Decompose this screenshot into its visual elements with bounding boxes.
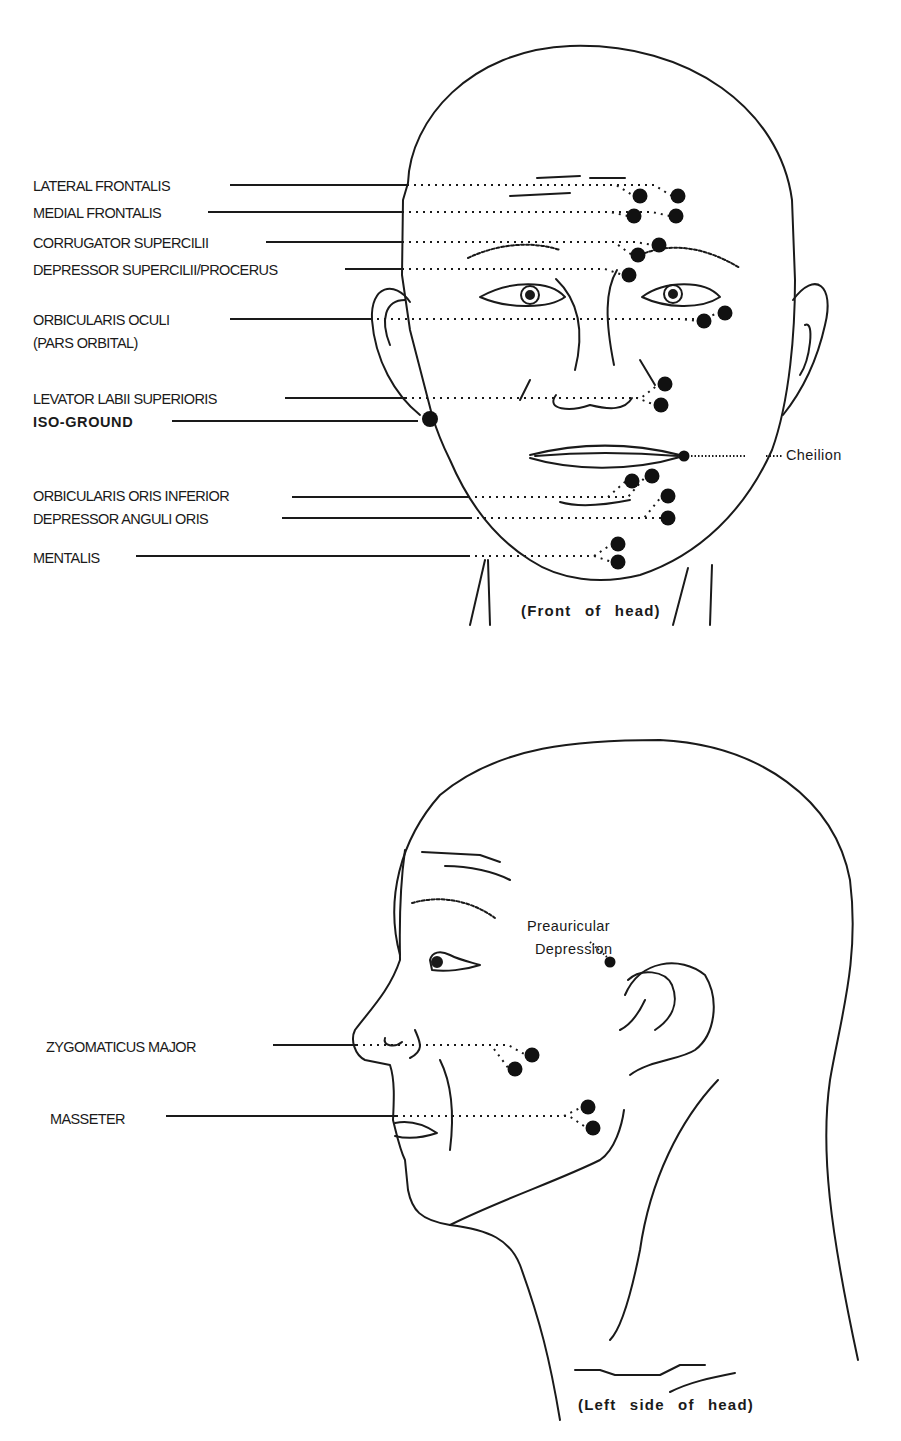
front-neck-right2 bbox=[673, 568, 688, 625]
electrode-zygomaticus-major-1 bbox=[525, 1048, 540, 1063]
front-neck-left2 bbox=[488, 560, 490, 625]
side-mouth bbox=[395, 1122, 437, 1138]
side-ear-inner bbox=[628, 972, 675, 1030]
shoulder-line bbox=[575, 1365, 705, 1375]
label-corrugator-supercilii: CORRUGATOR SUPERCILII bbox=[33, 236, 208, 251]
side-eyebrow bbox=[412, 899, 495, 918]
cheilion-marker bbox=[679, 451, 690, 462]
electrode-depressor-anguli-oris-2 bbox=[661, 511, 676, 526]
label-levator-labii-superioris: LEVATOR LABII SUPERIORIS bbox=[33, 392, 217, 407]
label-depressor-anguli-oris: DEPRESSOR ANGULI ORIS bbox=[33, 512, 208, 527]
eyebrow-left bbox=[468, 245, 560, 258]
front-head-outline bbox=[402, 46, 795, 580]
guide-dotted-orbicularis-oculi bbox=[370, 313, 719, 319]
nasolabial-right bbox=[640, 360, 655, 385]
label-zygomaticus-major: ZYGOMATICUS MAJOR bbox=[46, 1040, 196, 1055]
shoulder-line bbox=[670, 1373, 735, 1392]
nose-base bbox=[553, 395, 632, 409]
electrode-orbicularis-oculi-1 bbox=[697, 314, 712, 329]
side-neck-back bbox=[610, 1080, 718, 1340]
side-pupil bbox=[432, 957, 442, 967]
pupil-left bbox=[526, 291, 534, 299]
front-ear-left-inner bbox=[385, 300, 405, 345]
electrode-depressor-anguli-oris-1 bbox=[661, 489, 676, 504]
side-nasolabial bbox=[410, 1030, 420, 1058]
label-iso-ground: ISO-GROUND bbox=[33, 415, 133, 430]
mouth-middle bbox=[535, 453, 678, 456]
electrode-corrugator-supercilii-2 bbox=[652, 238, 667, 253]
electrode-masseter-2 bbox=[586, 1121, 601, 1136]
electrode-mentalis-2 bbox=[611, 555, 626, 570]
electrode-medial-frontalis-1 bbox=[627, 209, 642, 224]
guide-dotted-orbicularis-oris-inferior bbox=[468, 481, 626, 497]
mouth-lower bbox=[530, 457, 680, 468]
label-preauricular-line1: Preauricular bbox=[527, 918, 610, 935]
label-medial-frontalis: MEDIAL FRONTALIS bbox=[33, 206, 161, 221]
electrode-medial-frontalis-2 bbox=[669, 209, 684, 224]
label-orbicularis-oculi: ORBICULARIS OCULI bbox=[33, 313, 169, 328]
guide-dotted-mentalis bbox=[468, 556, 612, 562]
caption-front-of-head: (Front of head) bbox=[521, 602, 661, 619]
label-pars-orbital: (PARS ORBITAL) bbox=[33, 336, 138, 351]
guide-dotted-mentalis bbox=[468, 544, 612, 556]
front-neck-right bbox=[710, 565, 712, 625]
electrode-orbicularis-oris-inferior-2 bbox=[645, 469, 660, 484]
pupil-right bbox=[669, 290, 677, 298]
front-neck-left bbox=[470, 560, 485, 625]
guide-dotted-corrugator-supercilii bbox=[402, 242, 632, 255]
electrode-lateral-frontalis-2 bbox=[671, 189, 686, 204]
forehead-line bbox=[537, 176, 580, 178]
electrode-levator-labii-superioris-2 bbox=[654, 398, 669, 413]
label-depressor-supercilii-procerus: DEPRESSOR SUPERCILII/PROCERUS bbox=[33, 263, 277, 278]
label-preauricular-line2: Depression bbox=[535, 941, 612, 958]
electrode-levator-labii-superioris-1 bbox=[658, 377, 673, 392]
electrode-iso-ground bbox=[422, 411, 438, 427]
label-masseter: MASSETER bbox=[50, 1112, 125, 1127]
electrode-lateral-frontalis-1 bbox=[633, 189, 648, 204]
electrode-mentalis-1 bbox=[611, 537, 626, 552]
side-forehead-line bbox=[445, 866, 510, 880]
guide-dotted-depressor-anguli-oris bbox=[470, 496, 662, 518]
guide-dotted-masseter bbox=[396, 1107, 582, 1116]
side-forehead-line bbox=[422, 852, 500, 862]
front-ear-right bbox=[783, 284, 828, 415]
forehead-line bbox=[510, 193, 570, 196]
eye-left bbox=[480, 284, 565, 306]
caption-left-side-of-head: (Left side of head) bbox=[578, 1396, 754, 1413]
electrode-corrugator-supercilii-1 bbox=[631, 248, 646, 263]
label-cheilion: Cheilion bbox=[786, 447, 842, 464]
side-head-outline bbox=[394, 740, 858, 1360]
guide-dotted-levator-labii-superioris bbox=[405, 384, 659, 398]
label-mentalis: MENTALIS bbox=[33, 551, 100, 566]
guide-dotted-zygomaticus-major bbox=[356, 1045, 526, 1055]
front-ear-right-inner bbox=[800, 325, 810, 375]
side-ear-tragus bbox=[620, 1000, 645, 1030]
electrode-orbicularis-oculi-2 bbox=[718, 306, 733, 321]
side-cheek-line bbox=[440, 1060, 452, 1150]
electrode-zygomaticus-major-2 bbox=[508, 1062, 523, 1077]
nose-right bbox=[608, 270, 617, 365]
guide-dotted-depressor-supercilii-procerus bbox=[402, 269, 623, 275]
side-neck-front bbox=[450, 1225, 560, 1420]
guide-dotted-lateral-frontalis bbox=[407, 185, 634, 196]
electrode-orbicularis-oris-inferior-1 bbox=[625, 474, 640, 489]
label-orbicularis-oris-inferior: ORBICULARIS ORIS INFERIOR bbox=[33, 489, 229, 504]
guide-dotted-zygomaticus-major bbox=[356, 1045, 509, 1069]
electrode-depressor-supercilii-procerus-1 bbox=[622, 268, 637, 283]
front-ear-left bbox=[372, 289, 420, 415]
label-lateral-frontalis: LATERAL FRONTALIS bbox=[33, 179, 170, 194]
guide-dotted-levator-labii-superioris bbox=[405, 398, 655, 405]
electrode-masseter-1 bbox=[581, 1100, 596, 1115]
chin-crease bbox=[560, 500, 630, 505]
